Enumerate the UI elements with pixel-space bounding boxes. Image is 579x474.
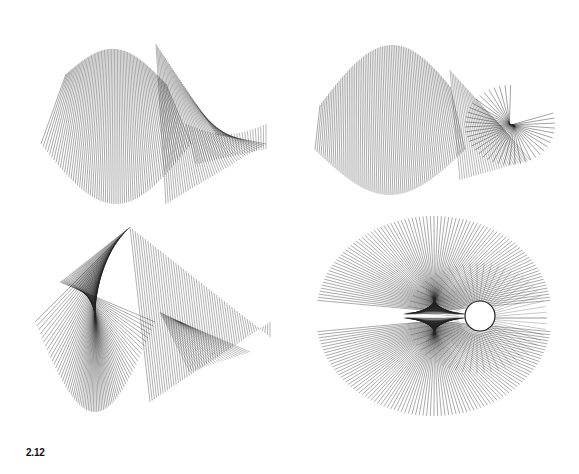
panel-top-left: [36, 24, 276, 214]
panel-bottom-right: [312, 208, 557, 423]
panel-bottom-left: [30, 222, 275, 427]
figure-caption: 2.12: [26, 447, 45, 458]
panel-top-right: [310, 40, 555, 200]
